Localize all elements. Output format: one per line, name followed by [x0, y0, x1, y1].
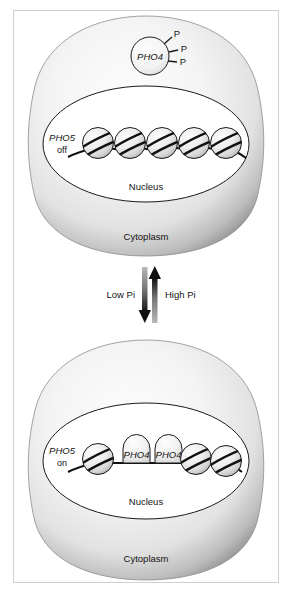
pho5-state-label-top: off: [57, 145, 67, 155]
pho5-gene-label-bottom: PHO5: [49, 445, 76, 456]
high-pi-arrow-up: [149, 266, 161, 323]
cell-bottom: PHO4 PHO4 PHO5 on Nucleus Cytoplasm: [28, 340, 264, 580]
cytoplasm-label-top: Cytoplasm: [124, 231, 169, 242]
low-pi-arrow-down: [139, 267, 151, 323]
pho4-bound-2: PHO4: [155, 435, 182, 464]
diagram-stage: PHO4 P P P PHO5 off Nucleus Cytoplasm: [0, 0, 293, 596]
cell-top: PHO4 P P P PHO5 off Nucleus Cytoplasm: [28, 16, 264, 256]
nucleus-label-top: Nucleus: [129, 181, 164, 192]
pho4-bound-1: PHO4: [123, 435, 150, 464]
transition-arrows: Low Pi High Pi: [106, 266, 195, 323]
high-pi-label: High Pi: [165, 289, 196, 300]
pho5-gene-label-top: PHO5: [49, 132, 76, 143]
pho4-bound-label-2: PHO4: [156, 449, 182, 460]
phosphate-label-3: P: [180, 56, 186, 67]
pho5-state-label-bottom: on: [57, 458, 67, 468]
phosphate-label-2: P: [181, 43, 187, 54]
pho4-bound-label-1: PHO4: [124, 449, 150, 460]
phosphate-label-1: P: [174, 28, 180, 39]
pho4-label: PHO4: [137, 51, 163, 62]
chromatin-top: [68, 128, 246, 161]
cytoplasm-label-bottom: Cytoplasm: [124, 553, 169, 564]
low-pi-label: Low Pi: [106, 289, 135, 300]
nucleus-label-bottom: Nucleus: [129, 496, 164, 507]
